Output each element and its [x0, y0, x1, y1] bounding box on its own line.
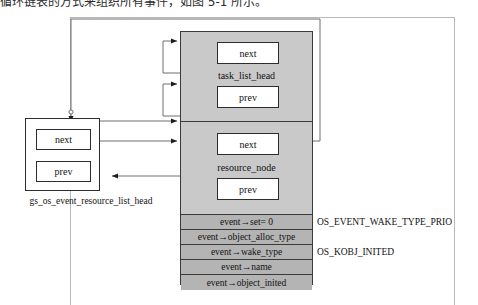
gs-os-event-resource-list-head-box: next prev	[25, 118, 100, 191]
field-row-set: event→set= 0	[181, 215, 312, 230]
field-row-name: event→name	[181, 260, 312, 275]
field-row-wake-type: event→wake_type	[181, 245, 312, 260]
diagram-canvas: 循环链表的方式来组织所有事件，如图 5-1 所示。	[0, 0, 478, 305]
head-prev-box: prev	[36, 161, 91, 182]
event-struct-block: next task_list_head prev next resource_n…	[180, 31, 313, 285]
resource-node-prev-box: prev	[217, 178, 279, 200]
head-next-box: next	[36, 129, 91, 150]
task-list-head-label: task_list_head	[181, 70, 312, 81]
annotation-object-inited: OS_KOBJ_INITED	[317, 247, 394, 257]
task-list-head-next-box: next	[217, 42, 279, 64]
field-row-object-inited: event→object_inited	[181, 275, 312, 290]
head-box-caption: gs_os_event_resource_list_head	[6, 196, 176, 206]
resource-node-next-box: next	[217, 133, 279, 155]
task-list-head-section: next task_list_head prev	[181, 32, 312, 122]
task-list-head-prev-box: prev	[217, 86, 279, 108]
resource-node-section: next resource_node prev	[181, 122, 312, 215]
field-row-object-alloc-type: event→object_alloc_type	[181, 230, 312, 245]
resource-node-label: resource_node	[181, 162, 312, 173]
annotation-wake-type: OS_EVENT_WAKE_TYPE_PRIO	[317, 217, 452, 227]
